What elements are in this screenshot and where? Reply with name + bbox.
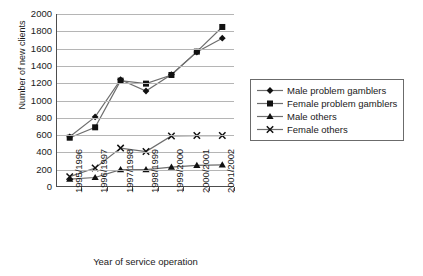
square-marker-icon (255, 97, 285, 110)
gridline (57, 135, 234, 136)
legend-item[interactable]: Male others (255, 110, 397, 123)
y-tick-label: 1000 (18, 96, 52, 105)
y-tick-label: 2000 (18, 9, 52, 18)
gridline (57, 14, 234, 15)
chart-figure: Number of new clients 020040060080010001… (0, 0, 423, 276)
legend-item[interactable]: Female others (255, 123, 397, 136)
y-tick-label: 600 (18, 130, 52, 139)
series-diamond (66, 35, 225, 140)
chart-legend: Male problem gamblersFemale problem gamb… (250, 79, 404, 141)
y-axis-tick-labels: 0200400600800100012001400160018002000 (14, 0, 52, 276)
x-axis-title: Year of service operation (56, 256, 235, 267)
gridline (57, 101, 234, 102)
x-tick-label: 1997/1998 (124, 149, 135, 193)
x-tick-label: 1995/1996 (73, 149, 84, 193)
y-tick-label: 800 (18, 113, 52, 122)
x-tick-label: 1998/1999 (149, 149, 160, 193)
triangle-marker-icon (255, 110, 285, 123)
y-tick-label: 400 (18, 147, 52, 156)
x-tick-label: 1999/2000 (174, 149, 185, 193)
gridline (57, 118, 234, 119)
x-tick-label: 2001/2002 (225, 149, 236, 193)
legend-label: Male problem gamblers (285, 85, 386, 96)
x-tick-label: 2000/2001 (200, 149, 211, 193)
y-tick-label: 1800 (18, 26, 52, 35)
y-tick-label: 1400 (18, 61, 52, 70)
legend-label: Male others (285, 111, 337, 122)
cross-marker-icon (255, 123, 285, 136)
y-tick-label: 1200 (18, 78, 52, 87)
legend-label: Female problem gamblers (285, 98, 397, 109)
y-tick-label: 200 (18, 165, 52, 174)
legend-item[interactable]: Female problem gamblers (255, 97, 397, 110)
x-tick-label: 1996/1997 (98, 149, 109, 193)
diamond-marker-icon (255, 84, 285, 97)
gridline (57, 66, 234, 67)
y-tick-label: 0 (18, 182, 52, 191)
legend-label: Female others (285, 124, 348, 135)
y-tick-label: 1600 (18, 44, 52, 53)
gridline (57, 83, 234, 84)
gridline (57, 31, 234, 32)
legend-item[interactable]: Male problem gamblers (255, 84, 397, 97)
gridline (57, 49, 234, 50)
